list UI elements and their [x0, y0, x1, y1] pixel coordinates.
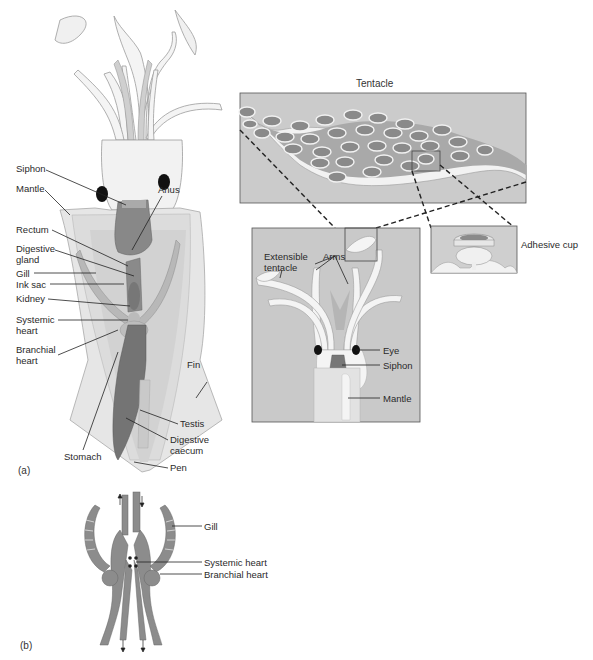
panel-a-tag: (a) — [18, 465, 30, 476]
label-systemic-heart-circ: Systemic heart — [204, 557, 267, 568]
label-adhesive-cup: Adhesive cup — [521, 239, 578, 250]
label-rectum: Rectum — [16, 224, 49, 235]
label-branchial-heart: Branchial heart — [16, 344, 56, 366]
tentacle-title: Tentacle — [356, 78, 393, 89]
label-siphon-inset: Siphon — [383, 360, 413, 371]
adhesive-cup-inset — [431, 226, 517, 273]
label-systemic-heart: Systemic heart — [16, 314, 55, 336]
label-mantle-inset: Mantle — [383, 393, 412, 404]
tentacle-inset — [239, 93, 526, 203]
panel-b-tag: (b) — [20, 640, 32, 651]
label-pen: Pen — [170, 462, 187, 473]
label-stomach: Stomach — [64, 451, 102, 462]
label-digestive-caecum: Digestive caecum — [170, 434, 209, 456]
label-eye: Eye — [383, 345, 399, 356]
label-testis: Testis — [180, 418, 204, 429]
eye-left-icon — [96, 186, 108, 202]
label-ink-sac: Ink sac — [16, 279, 46, 290]
label-branchial-heart-circ: Branchial heart — [204, 569, 268, 580]
label-fin: Fin — [187, 359, 200, 370]
label-extensible-tentacle: Extensible tentacle — [264, 251, 308, 273]
squid-anatomy-diagram — [0, 0, 593, 660]
squid-head — [96, 140, 183, 210]
label-siphon: Siphon — [16, 163, 46, 174]
circulation-diagram — [85, 492, 176, 645]
label-gill-circ: Gill — [204, 521, 218, 532]
label-digestive-gland: Digestive gland — [16, 243, 55, 265]
label-anus: Anus — [158, 184, 180, 195]
gill-striations — [85, 520, 175, 550]
label-kidney: Kidney — [16, 293, 45, 304]
label-arms: Arms — [323, 251, 345, 262]
label-mantle: Mantle — [16, 183, 45, 194]
label-gill: Gill — [16, 268, 30, 279]
